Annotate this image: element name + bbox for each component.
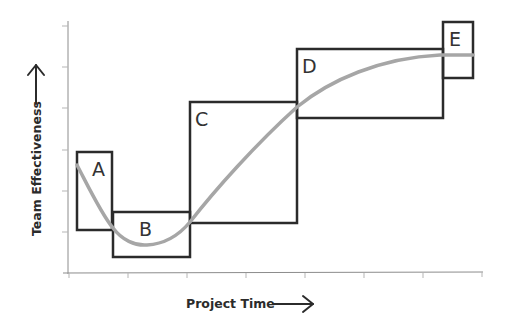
arrow-up-icon bbox=[28, 65, 44, 104]
team-effectiveness-diagram: A B C D E Team Effectiveness Project Tim… bbox=[0, 0, 507, 332]
y-axis-label: Team Effectiveness bbox=[29, 101, 44, 236]
x-axis bbox=[63, 272, 483, 278]
y-axis bbox=[62, 21, 68, 274]
stage-label-e: E bbox=[449, 28, 461, 50]
stage-label-b: B bbox=[139, 218, 152, 240]
stage-label-c: C bbox=[195, 108, 208, 130]
stage-label-a: A bbox=[92, 158, 105, 180]
stage-label-d: D bbox=[302, 55, 317, 77]
x-axis-line bbox=[63, 272, 483, 273]
stage-box-d bbox=[297, 49, 443, 118]
arrow-right-icon bbox=[273, 296, 313, 312]
x-axis-title: Project Time bbox=[186, 296, 313, 312]
x-axis-label: Project Time bbox=[186, 296, 275, 311]
y-axis-title: Team Effectiveness bbox=[28, 65, 44, 236]
effectiveness-curve bbox=[77, 55, 473, 245]
